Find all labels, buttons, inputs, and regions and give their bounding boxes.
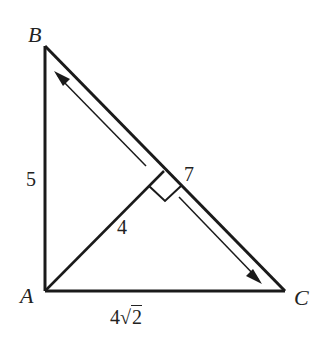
vertex-label-a: A xyxy=(20,285,33,307)
side-label-bc: 7 xyxy=(184,164,194,184)
vertex-label-b: B xyxy=(28,24,41,46)
sqrt-coefficient: 4 xyxy=(110,306,120,328)
right-angle-marker xyxy=(149,186,181,201)
side-label-ac: 4√2 xyxy=(110,307,142,327)
arrow-shaft-up xyxy=(58,76,146,166)
side-label-ab: 5 xyxy=(26,169,36,189)
altitude-line xyxy=(45,171,164,291)
triangle-diagram xyxy=(0,0,326,345)
sqrt-radicand: 2 xyxy=(131,305,142,328)
arrowhead-down-icon xyxy=(246,269,262,284)
arrowhead-up-icon xyxy=(54,71,70,86)
vertex-label-c: C xyxy=(294,287,309,309)
sqrt-symbol-icon: √ xyxy=(120,306,131,328)
altitude-label: 4 xyxy=(117,217,127,237)
arrow-shaft-down xyxy=(179,197,258,279)
